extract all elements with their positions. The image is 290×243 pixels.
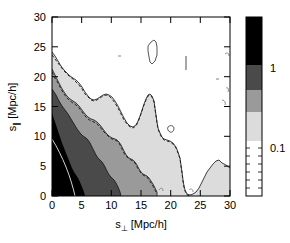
y-tick-label-0: 0 bbox=[40, 190, 46, 202]
colorbar-label-1: 1 bbox=[270, 62, 276, 74]
x-tick-label-4: 20 bbox=[165, 199, 177, 211]
x-axis-title-subscript: ⊥ bbox=[121, 224, 128, 233]
colorbar-band-black bbox=[246, 17, 262, 65]
x-tick-label-0: 0 bbox=[49, 199, 55, 211]
y-tick-label-4: 20 bbox=[34, 71, 46, 83]
y-axis-title-units: [Mpc/h] bbox=[6, 83, 18, 119]
x-tick-label-3: 15 bbox=[135, 199, 147, 211]
y-tick-label-3: 15 bbox=[34, 101, 46, 113]
x-tick-label-2: 10 bbox=[105, 199, 117, 211]
x-axis-title-units: [Mpc/h] bbox=[131, 218, 167, 230]
x-tick-label-6: 30 bbox=[224, 199, 236, 211]
x-tick-label-5: 25 bbox=[194, 199, 206, 211]
y-tick-label-5: 25 bbox=[34, 41, 46, 53]
contour-speck-upper-mid bbox=[118, 55, 121, 57]
colorbar-label-0-1: 0.1 bbox=[270, 142, 285, 154]
contour-plot-figure: 0 5 10 15 20 25 30 0 5 10 15 20 25 30 bbox=[0, 0, 290, 243]
colorbar-band-light-gray bbox=[246, 112, 262, 141]
y-tick-label-1: 5 bbox=[40, 160, 46, 172]
plot-svg: 0 5 10 15 20 25 30 0 5 10 15 20 25 30 bbox=[0, 0, 290, 243]
colorbar-band-mid-gray bbox=[246, 90, 262, 112]
colorbar-band-dark-gray bbox=[246, 65, 262, 90]
y-tick-label-2: 10 bbox=[34, 130, 46, 142]
x-tick-label-1: 5 bbox=[79, 199, 85, 211]
contour-speck-right bbox=[216, 78, 219, 80]
y-tick-label-6: 30 bbox=[34, 11, 46, 23]
